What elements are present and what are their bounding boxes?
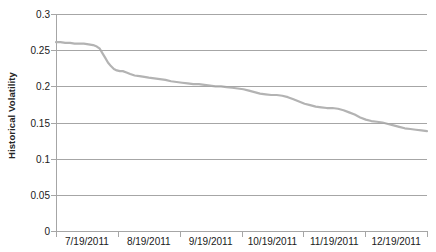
- y-axis-tick-mark: [51, 86, 56, 87]
- x-axis-tick-label: 8/19/2011: [127, 236, 171, 247]
- x-axis-tick-labels: 7/19/20118/19/20119/19/201110/19/201111/…: [0, 236, 436, 252]
- x-axis-tick-mark: [427, 232, 428, 237]
- y-axis-title: Historical Volatility: [0, 0, 22, 230]
- x-axis-tick-label: 10/19/2011: [248, 236, 297, 247]
- y-axis-tick-label: 0.25: [31, 45, 50, 56]
- gridline: [56, 14, 427, 15]
- x-axis-tick-mark: [365, 232, 366, 237]
- y-axis-tick-label: 0.3: [36, 9, 50, 20]
- y-axis-tick-mark: [51, 14, 56, 15]
- gridline: [56, 195, 427, 196]
- y-axis-tick-label: 0.05: [31, 189, 50, 200]
- y-axis-tick-mark: [51, 123, 56, 124]
- gridline: [56, 123, 427, 124]
- x-axis-tick-mark: [303, 232, 304, 237]
- x-axis-tick-label: 9/19/2011: [189, 236, 233, 247]
- historical-volatility-chart: Historical Volatility 0.30.250.20.150.10…: [0, 0, 436, 252]
- y-axis-tick-label: 0: [44, 226, 50, 237]
- gridline: [56, 159, 427, 160]
- y-axis-tick-mark: [51, 159, 56, 160]
- x-axis-tick-mark: [180, 232, 181, 237]
- y-axis-tick-label: 0.15: [31, 117, 50, 128]
- x-axis-tick-mark: [242, 232, 243, 237]
- y-axis-tick-mark: [51, 195, 56, 196]
- plot-area: [56, 14, 427, 231]
- y-axis-tick-labels: 0.30.250.20.150.10.050: [22, 0, 53, 252]
- x-axis-tick-label: 7/19/2011: [65, 236, 109, 247]
- gridline: [56, 50, 427, 51]
- x-axis-tick-label: 12/19/2011: [371, 236, 420, 247]
- y-axis-tick-label: 0.1: [36, 153, 50, 164]
- x-axis-tick-label: 11/19/2011: [310, 236, 359, 247]
- gridline: [56, 86, 427, 87]
- x-axis-tick-mark: [56, 232, 57, 237]
- y-axis-tick-label: 0.2: [36, 81, 50, 92]
- y-axis-title-label: Historical Volatility: [6, 72, 17, 159]
- x-axis-tick-mark: [118, 232, 119, 237]
- y-axis-tick-mark: [51, 50, 56, 51]
